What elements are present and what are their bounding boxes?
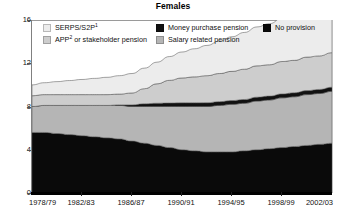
legend-swatch xyxy=(43,24,51,32)
legend-swatch xyxy=(43,36,51,44)
chart-title: Females xyxy=(0,1,346,11)
x-tick-mark xyxy=(231,192,232,196)
y-axis: 0481216 xyxy=(0,0,31,220)
legend-label: Money purchase pension xyxy=(168,24,248,32)
x-tick-mark xyxy=(131,192,132,196)
legend-salary-related-pension[interactable]: Salary related pension xyxy=(156,36,240,44)
x-tick-label: 1978/79 xyxy=(29,198,56,207)
legend-label: SERPS/S2P1 xyxy=(55,24,98,32)
legend-no-provision[interactable]: No provision xyxy=(263,24,315,32)
x-tick-label: 1990/91 xyxy=(167,198,194,207)
x-tick-label: 1986/87 xyxy=(117,198,144,207)
chart-container: Females 0481216 1978/791982/831986/87199… xyxy=(0,0,346,220)
legend-swatch xyxy=(156,24,164,32)
legend-serps-s2p[interactable]: SERPS/S2P1 xyxy=(43,24,98,32)
legend-swatch xyxy=(263,24,271,32)
x-tick-label: 1998/99 xyxy=(267,198,294,207)
x-tick-label: 1982/83 xyxy=(67,198,94,207)
x-tick-mark xyxy=(281,192,282,196)
legend-money-purchase-pension[interactable]: Money purchase pension xyxy=(156,24,248,32)
legend-label: APP2 or stakeholder pension xyxy=(55,36,147,44)
legend-swatch xyxy=(156,36,164,44)
legend-label: Salary related pension xyxy=(168,36,240,44)
x-tick-label: 2002/03 xyxy=(306,198,333,207)
chart-legend: SERPS/S2P1Money purchase pensionNo provi… xyxy=(31,24,331,50)
legend-app-or-stakeholder-pension[interactable]: APP2 or stakeholder pension xyxy=(43,36,147,44)
legend-label: No provision xyxy=(275,24,315,32)
x-tick-mark xyxy=(81,192,82,196)
x-axis: 1978/791982/831986/871990/911994/951998/… xyxy=(0,196,346,216)
x-tick-mark xyxy=(181,192,182,196)
x-tick-label: 1994/95 xyxy=(217,198,244,207)
